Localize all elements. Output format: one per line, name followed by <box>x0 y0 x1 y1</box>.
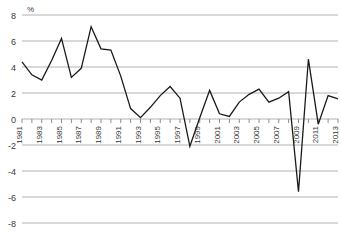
y-axis-tick-label: -8 <box>8 219 16 229</box>
x-axis-tick-label: 1993 <box>134 125 143 143</box>
x-axis-tick-label: 2011 <box>311 125 320 143</box>
x-axis-tick-label: 2001 <box>213 125 222 143</box>
y-axis-tick-label: 6 <box>11 37 16 47</box>
chart-container: 86420-2-4-6-8 19811983198519871989199119… <box>0 0 341 234</box>
y-axis-tick-label: 0 <box>11 115 16 125</box>
y-axis-tick-label: 2 <box>11 89 16 99</box>
x-axis-tick-label: 1981 <box>15 125 24 143</box>
x-axis-tick-label: 2003 <box>232 125 241 143</box>
chart-background <box>0 0 341 234</box>
line-chart: 86420-2-4-6-8 19811983198519871989199119… <box>0 0 341 234</box>
x-axis-tick-label: 2007 <box>272 125 281 143</box>
x-axis-tick-label: 2005 <box>252 125 261 143</box>
y-axis-unit-label: % <box>27 5 34 14</box>
x-axis-tick-label: 1987 <box>74 125 83 143</box>
x-axis-tick-label: 1989 <box>94 125 103 143</box>
x-axis-tick-label: 1983 <box>35 125 44 143</box>
y-axis-tick-label: 4 <box>11 63 16 73</box>
x-axis-tick-label: 1997 <box>173 125 182 143</box>
y-axis-tick-label: 8 <box>11 11 16 21</box>
y-axis-tick-label: -6 <box>8 193 16 203</box>
y-axis-tick-label: -4 <box>8 167 16 177</box>
x-axis-tick-label: 1985 <box>55 125 64 143</box>
x-axis-tick-label: 2013 <box>331 125 340 143</box>
x-axis-tick-label: 1991 <box>114 125 123 143</box>
x-axis-tick-label: 1995 <box>153 125 162 143</box>
